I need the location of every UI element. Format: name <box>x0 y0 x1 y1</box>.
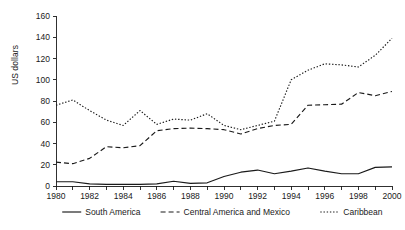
y-tick-label: 120 <box>36 54 50 64</box>
series-line-central-america-and-mexico <box>56 91 392 163</box>
legend-label: South America <box>85 207 141 217</box>
chart-legend: South AmericaCentral America and MexicoC… <box>62 207 383 217</box>
x-tick-label: 1998 <box>349 191 368 201</box>
y-axis-ticks: 020406080100120140160 <box>36 11 56 191</box>
x-tick-label: 1984 <box>114 191 133 201</box>
legend-label: Caribbean <box>343 207 382 217</box>
x-tick-label: 1986 <box>147 191 166 201</box>
x-tick-label: 1994 <box>282 191 301 201</box>
x-tick-label: 1982 <box>80 191 99 201</box>
chart-figure: US dollars 020406080100120140160 1980198… <box>0 0 405 230</box>
y-tick-label: 60 <box>41 117 51 127</box>
line-chart-plot: 020406080100120140160 198019821984198619… <box>0 0 405 230</box>
y-tick-label: 20 <box>41 160 51 170</box>
y-tick-label: 100 <box>36 75 50 85</box>
y-tick-label: 0 <box>45 181 50 191</box>
x-tick-label: 2000 <box>383 191 402 201</box>
series-line-south-america <box>56 167 392 185</box>
data-series-group <box>56 38 392 184</box>
x-tick-label: 1996 <box>315 191 334 201</box>
legend-label: Central America and Mexico <box>184 207 291 217</box>
x-axis-ticks: 1980198219841986198819901992199419961998… <box>47 186 402 201</box>
y-tick-label: 80 <box>41 96 51 106</box>
series-line-caribbean <box>56 38 392 129</box>
x-tick-label: 1988 <box>181 191 200 201</box>
y-tick-label: 40 <box>41 139 51 149</box>
x-tick-label: 1992 <box>248 191 267 201</box>
x-tick-label: 1980 <box>47 191 66 201</box>
x-tick-label: 1990 <box>215 191 234 201</box>
y-tick-label: 140 <box>36 32 50 42</box>
y-tick-label: 160 <box>36 11 50 21</box>
